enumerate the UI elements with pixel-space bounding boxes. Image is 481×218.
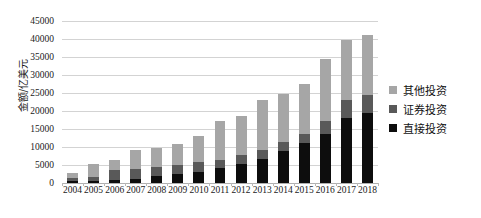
- bar-group[interactable]: [88, 164, 99, 183]
- bar-segment[interactable]: [109, 160, 120, 170]
- legend-label: 直接投资: [403, 120, 447, 136]
- bar-segment[interactable]: [215, 121, 226, 161]
- bar-segment[interactable]: [299, 134, 310, 143]
- plot-area: [62, 21, 378, 183]
- bar-group[interactable]: [193, 136, 204, 183]
- bar-group[interactable]: [215, 121, 226, 183]
- x-tick-label: 2018: [358, 185, 377, 195]
- legend-item[interactable]: 证券投资: [389, 99, 479, 118]
- legend-swatch-icon: [389, 124, 397, 132]
- bar-segment[interactable]: [67, 181, 78, 183]
- bar-segment[interactable]: [215, 168, 226, 183]
- x-tickmark: [336, 183, 337, 186]
- x-tickmark: [357, 183, 358, 186]
- x-tickmark: [294, 183, 295, 186]
- x-tickmark: [62, 183, 63, 186]
- x-tickmark: [315, 183, 316, 186]
- bar-segment[interactable]: [341, 118, 352, 183]
- bar-segment[interactable]: [151, 176, 162, 183]
- bar-segment[interactable]: [172, 174, 183, 183]
- bar-segment[interactable]: [320, 59, 331, 121]
- x-tickmark: [83, 183, 84, 186]
- chart-legend: 其他投资证券投资直接投资: [389, 80, 479, 137]
- bar-group[interactable]: [278, 94, 289, 183]
- bar-segment[interactable]: [151, 167, 162, 176]
- x-tick-label: 2013: [253, 185, 272, 195]
- bar-segment[interactable]: [362, 95, 373, 113]
- x-tick-label: 2009: [168, 185, 187, 195]
- x-tickmark: [146, 183, 147, 186]
- bar-segment[interactable]: [109, 170, 120, 180]
- bar-segment[interactable]: [109, 180, 120, 183]
- bar-segment[interactable]: [278, 142, 289, 151]
- x-tick-label: 2012: [232, 185, 251, 195]
- x-tick-label: 2010: [189, 185, 208, 195]
- bar-group[interactable]: [172, 144, 183, 183]
- y-tick-label: 10000: [0, 142, 54, 152]
- bar-segment[interactable]: [362, 113, 373, 183]
- bar-group[interactable]: [109, 160, 120, 183]
- y-tick-label: 30000: [0, 70, 54, 80]
- bar-segment[interactable]: [236, 116, 247, 155]
- y-tick-label: 25000: [0, 88, 54, 98]
- bar-segment[interactable]: [299, 143, 310, 183]
- bar-segment[interactable]: [236, 155, 247, 164]
- gridline: [62, 57, 378, 58]
- bar-segment[interactable]: [130, 150, 141, 169]
- bar-segment[interactable]: [172, 144, 183, 166]
- bar-segment[interactable]: [320, 134, 331, 183]
- bar-segment[interactable]: [320, 121, 331, 134]
- bar-segment[interactable]: [236, 164, 247, 183]
- x-tick-label: 2014: [274, 185, 293, 195]
- bar-segment[interactable]: [88, 181, 99, 183]
- x-tick-label: 2016: [316, 185, 335, 195]
- stacked-bar-chart: 金额/亿美元 050001000015000200002500030000350…: [0, 0, 481, 218]
- bar-segment[interactable]: [151, 148, 162, 168]
- bar-group[interactable]: [151, 148, 162, 184]
- y-tick-label: 45000: [0, 16, 54, 26]
- bar-segment[interactable]: [299, 84, 310, 134]
- bar-group[interactable]: [299, 84, 310, 183]
- bar-group[interactable]: [257, 100, 268, 183]
- x-tickmark: [188, 183, 189, 186]
- bar-segment[interactable]: [130, 169, 141, 179]
- bar-segment[interactable]: [257, 100, 268, 150]
- x-tickmark: [104, 183, 105, 186]
- legend-item[interactable]: 直接投资: [389, 118, 479, 137]
- bar-segment[interactable]: [193, 172, 204, 183]
- legend-item[interactable]: 其他投资: [389, 80, 479, 99]
- bar-segment[interactable]: [257, 150, 268, 159]
- legend-swatch-icon: [389, 86, 397, 94]
- bar-segment[interactable]: [215, 160, 226, 167]
- x-tickmark: [125, 183, 126, 186]
- bar-segment[interactable]: [88, 164, 99, 176]
- x-tick-label: 2015: [295, 185, 314, 195]
- bar-segment[interactable]: [362, 35, 373, 95]
- bar-segment[interactable]: [193, 136, 204, 162]
- bar-group[interactable]: [362, 35, 373, 183]
- x-tick-label: 2006: [105, 185, 124, 195]
- bar-group[interactable]: [236, 116, 247, 183]
- bar-group[interactable]: [130, 150, 141, 183]
- bar-segment[interactable]: [130, 179, 141, 183]
- bar-segment[interactable]: [193, 162, 204, 171]
- x-tick-label: 2005: [84, 185, 103, 195]
- bar-segment[interactable]: [257, 159, 268, 183]
- gridline: [62, 21, 378, 22]
- y-axis-tick-labels: 0500010000150002000025000300003500040000…: [0, 0, 58, 218]
- bar-group[interactable]: [320, 59, 331, 183]
- x-tick-label: 2011: [211, 185, 230, 195]
- x-tick-label: 2004: [63, 185, 82, 195]
- bar-segment[interactable]: [278, 151, 289, 183]
- bar-segment[interactable]: [341, 100, 352, 118]
- x-tick-label: 2008: [147, 185, 166, 195]
- x-tick-label: 2007: [126, 185, 145, 195]
- x-tickmark: [231, 183, 232, 186]
- y-tick-label: 0: [0, 178, 54, 188]
- bar-segment[interactable]: [172, 165, 183, 174]
- bar-segment[interactable]: [341, 40, 352, 100]
- bar-segment[interactable]: [278, 94, 289, 142]
- bar-group[interactable]: [67, 173, 78, 183]
- x-tickmark: [167, 183, 168, 186]
- bar-group[interactable]: [341, 40, 352, 183]
